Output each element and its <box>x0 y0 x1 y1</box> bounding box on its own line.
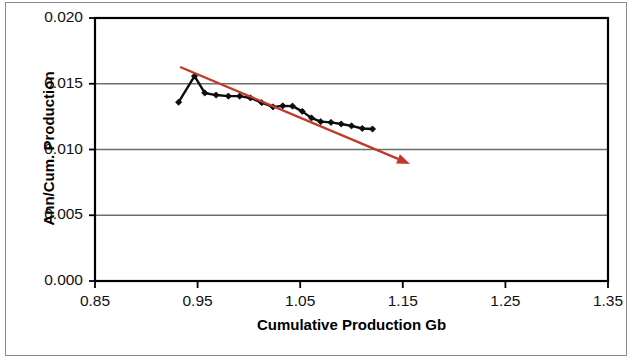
x-tick-label: 0.85 <box>65 292 125 310</box>
x-tick-label: 1.25 <box>475 292 535 310</box>
x-tick-label: 0.95 <box>168 292 228 310</box>
x-tick-label: 1.35 <box>578 292 632 310</box>
x-axis-title: Cumulative Production Gb <box>95 316 608 333</box>
y-tick-label: 0.020 <box>21 8 83 26</box>
x-tick-label: 1.15 <box>373 292 433 310</box>
y-axis-title: Ann/Cum. Production <box>40 39 57 259</box>
data-series-line <box>176 73 376 132</box>
gridlines <box>95 84 608 216</box>
chart-figure: 0.0000.0050.0100.0150.020 0.850.951.051.… <box>0 0 632 361</box>
y-tick-label: 0.000 <box>21 271 83 289</box>
x-tick-label: 1.05 <box>270 292 330 310</box>
